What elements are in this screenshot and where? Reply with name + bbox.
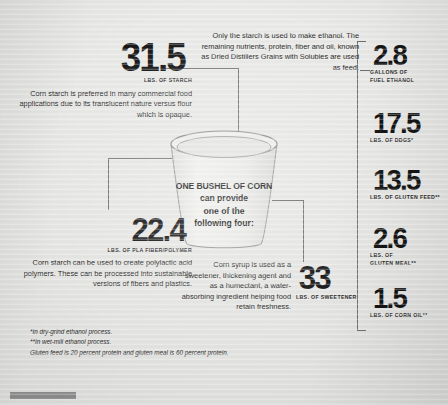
fuel-ethanol-unit-2: FUEL ETHANOL	[370, 77, 446, 84]
stat-block-ddgs: 17.5 LBS. OF DDGS*	[370, 110, 446, 144]
fuel-ethanol-value: 2.8	[373, 42, 443, 68]
footnote-3: Gluten feed is 20 percent protein and gl…	[30, 348, 280, 358]
corn-syrup-note: Corn syrup is used as a sweetener, thick…	[178, 260, 291, 313]
footnotes: *In dry-grind ethanol process. **In wet-…	[30, 327, 280, 358]
stat-block-pla: 22.4 LBS. OF PLA FIBER/POLYMER Corn star…	[16, 215, 192, 290]
bushel-caption-line1: ONE BUSHEL OF CORN	[168, 180, 280, 192]
gluten-meal-unit-2: GLUTEN MEAL**	[370, 260, 446, 267]
pla-description: Corn starch can be used to create polyla…	[16, 258, 192, 290]
ddgs-value: 17.5	[373, 110, 443, 136]
starch-description: Corn starch is preferred in many commerc…	[16, 89, 192, 121]
stat-block-sweetener: 33 LBS. OF SWEETENER	[296, 263, 366, 300]
stat-block-gluten-feed: 13.5 LBS. OF GLUTEN FEED**	[370, 167, 446, 201]
starch-value: 31.5	[23, 40, 185, 75]
bottom-gray-bar	[10, 392, 76, 399]
bushel-caption-line2: can provide	[168, 192, 280, 204]
footnote-2: **In wet-mill ethanol process.	[30, 337, 280, 347]
stat-block-corn-oil: 1.5 LBS. OF CORN OIL**	[370, 285, 446, 319]
ethanol-note: Only the starch is used to make ethanol.…	[196, 31, 359, 73]
footnote-1: *In dry-grind ethanol process.	[30, 327, 280, 337]
gluten-meal-value: 2.6	[373, 225, 443, 251]
stat-block-fuel-ethanol: 2.8 GALLONS OF FUEL ETHANOL	[370, 42, 446, 83]
corn-oil-value: 1.5	[373, 285, 443, 311]
sweetener-value: 33	[299, 263, 363, 293]
pla-value: 22.4	[23, 215, 185, 245]
stat-block-gluten-meal: 2.6 LBS. OF GLUTEN MEAL**	[370, 225, 446, 266]
stat-block-starch: 31.5 LBS. OF STARCH Corn starch is prefe…	[16, 40, 192, 120]
gluten-feed-value: 13.5	[373, 167, 443, 193]
infographic-poster: ONE BUSHEL OF CORN can provide one of th…	[0, 0, 448, 405]
